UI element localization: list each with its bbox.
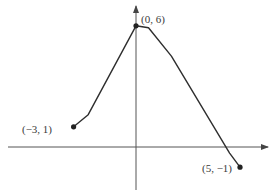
label-start-point: (−3, 1) xyxy=(22,124,52,135)
function-graph xyxy=(0,0,276,195)
label-peak-point: (0, 6) xyxy=(141,14,165,25)
point-peak xyxy=(133,23,138,28)
label-end-point: (5, −1) xyxy=(202,163,232,174)
point-end xyxy=(237,165,242,170)
function-curve xyxy=(74,26,240,167)
point-start xyxy=(71,124,76,129)
